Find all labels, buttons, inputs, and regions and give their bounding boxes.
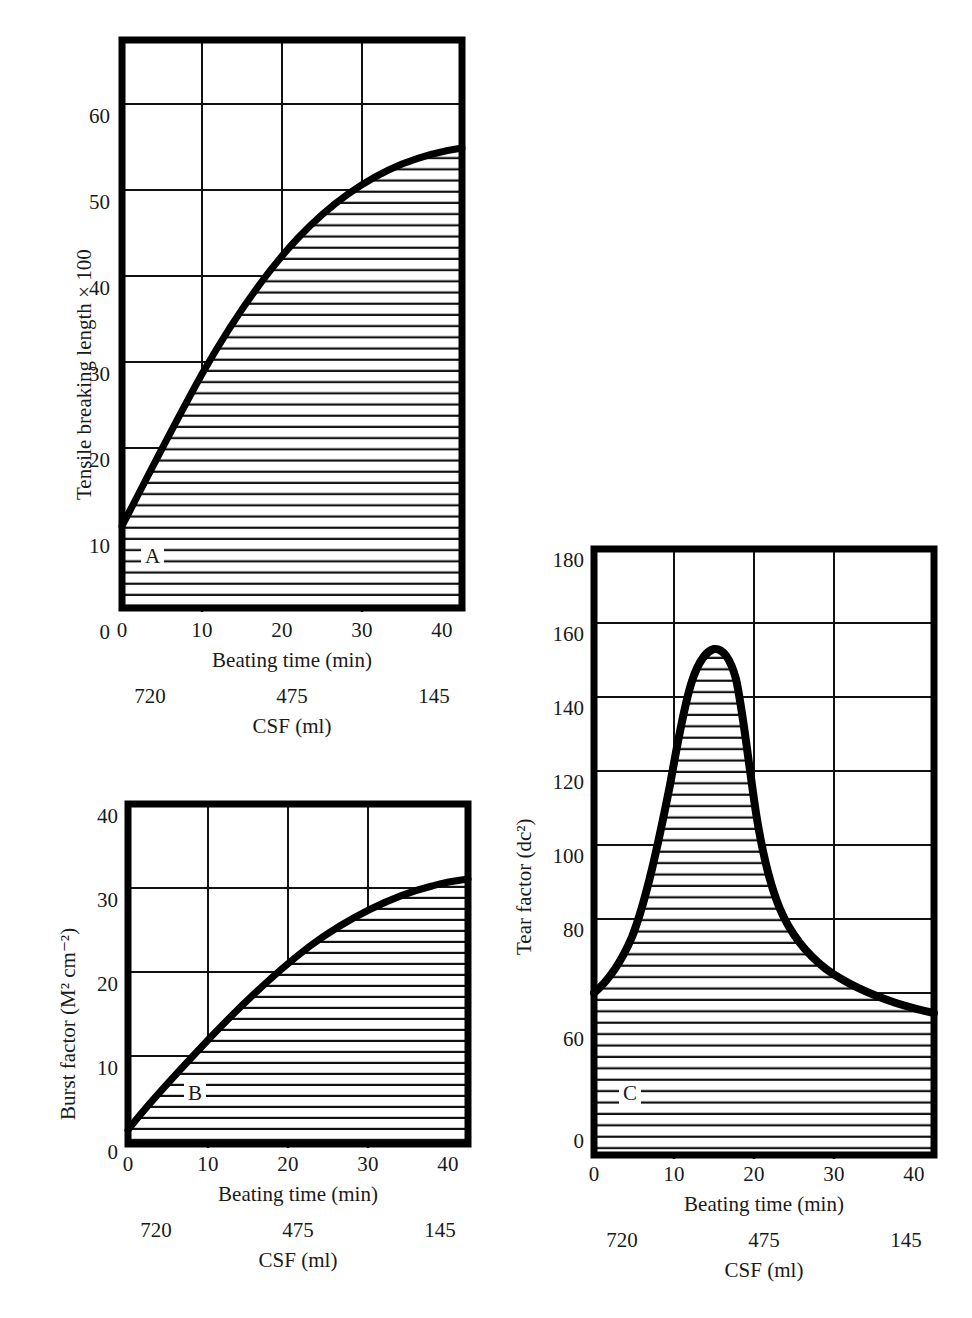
csf-tick-label: 145: [424, 1218, 456, 1243]
panel-b-csf-axis-title: CSF (ml): [128, 1248, 468, 1273]
panel-a-csf-tick-labels: 720 475 145: [122, 684, 462, 710]
y-tick-label: 20: [97, 972, 118, 997]
csf-tick-label: 475: [748, 1228, 780, 1253]
y-tick-label: 40: [89, 276, 110, 301]
x-tick-label: 30: [351, 618, 372, 643]
y-tick-label: 50: [89, 190, 110, 215]
csf-tick-label: 720: [606, 1228, 638, 1253]
y-tick-label: 0: [574, 1129, 585, 1154]
y-tick-label: 160: [553, 622, 585, 647]
y-tick-label: 60: [89, 104, 110, 129]
panel-a-plot: [118, 36, 466, 612]
panel-c-y-tick-labels: 180 160 140 120 100 80 60 0: [530, 549, 584, 1149]
y-tick-label: 40: [97, 804, 118, 829]
panel-c-letter: C: [619, 1082, 641, 1105]
panel-b-csf-tick-labels: 720 475 145: [128, 1218, 468, 1244]
y-tick-label: 30: [97, 888, 118, 913]
panel-b-plot: [124, 800, 472, 1148]
y-tick-label: 10: [97, 1056, 118, 1081]
csf-tick-label: 720: [134, 684, 166, 709]
x-tick-label: 0: [117, 618, 128, 643]
x-tick-label: 40: [431, 618, 452, 643]
y-tick-label: 0: [100, 620, 111, 645]
y-tick-label: 10: [89, 534, 110, 559]
x-tick-label: 20: [277, 1152, 298, 1177]
x-tick-label: 30: [823, 1162, 844, 1187]
y-tick-label: 60: [563, 1027, 584, 1052]
panel-c-x-tick-labels: 0 10 20 30 40: [594, 1162, 934, 1188]
panel-c-x-axis-title: Beating time (min): [594, 1192, 934, 1217]
panel-c-plot: [590, 545, 938, 1159]
x-tick-label: 30: [357, 1152, 378, 1177]
panel-b-x-axis-title: Beating time (min): [128, 1182, 468, 1207]
x-tick-label: 20: [271, 618, 292, 643]
x-tick-label: 0: [123, 1152, 134, 1177]
y-tick-label: 20: [89, 448, 110, 473]
panel-b-y-axis-title: Burst factor (M² cm⁻²): [56, 928, 81, 1120]
panel-a-x-tick-labels: 0 10 20 30 40: [122, 618, 462, 644]
x-tick-label: 40: [437, 1152, 458, 1177]
x-tick-label: 40: [903, 1162, 924, 1187]
panel-a-letter: A: [141, 545, 164, 568]
y-tick-label: 120: [553, 770, 585, 795]
x-tick-label: 10: [663, 1162, 684, 1187]
chart-panel-a: Tensile breaking length × 100 60 50 40 3…: [0, 0, 490, 780]
panel-c-csf-axis-title: CSF (ml): [594, 1258, 934, 1283]
csf-tick-label: 720: [140, 1218, 172, 1243]
csf-tick-label: 475: [276, 684, 308, 709]
panel-b-x-tick-labels: 0 10 20 30 40: [128, 1152, 468, 1178]
figure-root: Tensile breaking length × 100 60 50 40 3…: [0, 0, 972, 1318]
y-tick-label: 0: [108, 1140, 119, 1165]
panel-a-csf-axis-title: CSF (ml): [122, 714, 462, 739]
panel-b-y-tick-labels: 40 30 20 10 0: [82, 804, 118, 1154]
panel-b-letter: B: [184, 1082, 206, 1105]
csf-tick-label: 145: [890, 1228, 922, 1253]
panel-a-x-axis-title: Beating time (min): [122, 648, 462, 673]
y-tick-label: 180: [553, 548, 585, 573]
y-tick-label: 100: [553, 844, 585, 869]
csf-tick-label: 145: [418, 684, 450, 709]
chart-panel-b: Burst factor (M² cm⁻²) 40 30 20 10 0: [0, 790, 490, 1318]
y-tick-label: 80: [563, 918, 584, 943]
x-tick-label: 10: [191, 618, 212, 643]
y-tick-label: 30: [89, 362, 110, 387]
x-tick-label: 20: [743, 1162, 764, 1187]
panel-a-y-tick-labels: 60 50 40 30 20 10 0: [76, 38, 110, 608]
chart-panel-c: Tear factor (dc²) 180 160 140 120 100 80…: [490, 530, 972, 1318]
x-tick-label: 0: [589, 1162, 600, 1187]
csf-tick-label: 475: [282, 1218, 314, 1243]
x-tick-label: 10: [197, 1152, 218, 1177]
y-tick-label: 140: [553, 696, 585, 721]
panel-c-csf-tick-labels: 720 475 145: [594, 1228, 934, 1254]
